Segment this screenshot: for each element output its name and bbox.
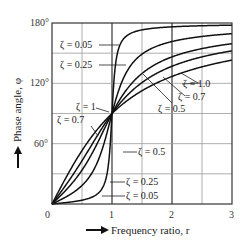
label-zeta-005-low: ζ = 0.05 (126, 190, 158, 202)
x-tick-3: 3 (229, 209, 234, 220)
svg-text:Frequency ratio, r: Frequency ratio, r (111, 224, 190, 236)
label-zeta-1-mid: ζ = 1 (76, 101, 96, 113)
label-zeta-025-top: ζ = 0.25 (60, 59, 92, 71)
svg-text:Phase angle, φ: Phase angle, φ (11, 78, 23, 142)
x-tick-0: 0 (45, 209, 50, 220)
label-zeta-07-mid: ζ = 0.7 (57, 114, 84, 126)
x-tick-2: 2 (169, 209, 174, 220)
arrowhead-up-icon (14, 146, 22, 154)
label-zeta-05-low: ζ = 0.5 (138, 146, 165, 158)
phase-angle-chart: 180° 120° 60° 0 1 2 3 Frequency ratio, r… (0, 0, 246, 248)
x-axis-title: Frequency ratio, r (86, 224, 190, 236)
label-zeta-10-right: ζ = 1.0 (183, 78, 210, 90)
arrowhead-right-icon (101, 226, 109, 234)
label-zeta-025-low: ζ = 0.25 (126, 176, 158, 188)
label-zeta-07-right: ζ = 0.7 (178, 91, 205, 103)
y-tick-180: 180° (30, 17, 49, 28)
y-tick-60: 60° (34, 138, 48, 149)
y-tick-120: 120° (30, 77, 49, 88)
label-zeta-005-top: ζ = 0.05 (60, 39, 92, 51)
y-axis-title: Phase angle, φ (11, 78, 23, 168)
label-zeta-05-right: ζ = 0.5 (158, 103, 185, 115)
x-tick-1: 1 (109, 209, 114, 220)
